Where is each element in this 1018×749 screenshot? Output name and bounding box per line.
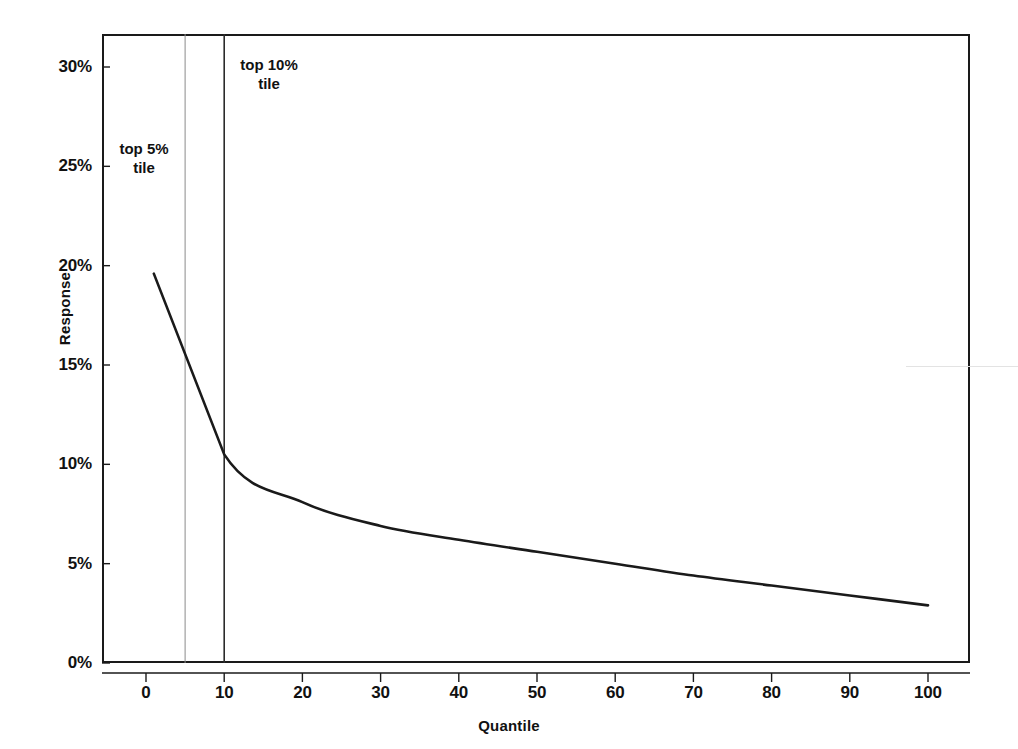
x-tick-label: 10 xyxy=(194,683,254,703)
x-tick-label: 100 xyxy=(898,683,958,703)
data-series-group xyxy=(154,274,928,606)
annotation-top-10-percentile: top 10% tile xyxy=(226,56,312,94)
x-tick-label: 0 xyxy=(116,683,176,703)
x-tick-label: 70 xyxy=(663,683,723,703)
reference-lines-group xyxy=(185,34,224,663)
x-tick-label: 60 xyxy=(585,683,645,703)
x-tick-label: 30 xyxy=(351,683,411,703)
x-tick-label: 90 xyxy=(820,683,880,703)
x-tick-label: 80 xyxy=(742,683,802,703)
x-tick-label: 40 xyxy=(429,683,489,703)
y-tick-label: 15% xyxy=(0,355,92,375)
data-line-Response xyxy=(154,274,928,606)
chart-container: 0%5%10%15%20%25%30% 01020304050607080901… xyxy=(0,0,1018,749)
x-tick-marks-group xyxy=(102,673,970,682)
y-tick-label: 5% xyxy=(0,554,92,574)
x-tick-label: 50 xyxy=(507,683,567,703)
y-axis-title: Response xyxy=(56,239,73,379)
y-tick-label: 10% xyxy=(0,454,92,474)
y-tick-label: 30% xyxy=(0,57,92,77)
y-tick-label: 20% xyxy=(0,256,92,276)
x-axis-title: Quantile xyxy=(0,717,1018,734)
y-tick-label: 0% xyxy=(0,653,92,673)
y-tick-label: 25% xyxy=(0,156,92,176)
plot-svg xyxy=(0,0,1018,749)
x-tick-label: 20 xyxy=(272,683,332,703)
annotation-top-5-percentile: top 5% tile xyxy=(108,140,180,178)
